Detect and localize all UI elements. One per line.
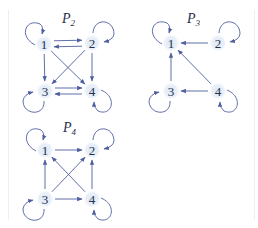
node-label: 3 [168, 84, 175, 99]
transition-graphs-diagram: P21234P31234P41234 [0, 0, 258, 228]
node-label: 4 [215, 84, 222, 99]
edge-4-to-1 [178, 50, 211, 84]
node-2: 2 [83, 141, 101, 159]
node-label: 1 [42, 143, 49, 158]
edge-1-to-2 [54, 40, 82, 41]
node-label: 1 [41, 37, 48, 52]
node-4: 4 [83, 82, 101, 100]
node-label: 2 [89, 143, 96, 158]
node-3: 3 [162, 82, 180, 100]
graph-title: P2 [61, 11, 76, 28]
node-label: 2 [89, 36, 96, 51]
edge-2-to-1 [54, 46, 82, 47]
graph-p2: P21234 [23, 11, 114, 112]
node-4: 4 [209, 82, 227, 100]
node-1: 1 [35, 35, 53, 53]
edge-1-to-3 [44, 54, 45, 81]
node-1: 1 [36, 141, 54, 159]
node-label: 2 [215, 36, 222, 51]
node-3: 3 [36, 190, 54, 208]
graph-p3: P31234 [149, 11, 240, 112]
node-label: 3 [42, 192, 49, 207]
node-label: 4 [89, 192, 96, 207]
node-label: 3 [42, 84, 49, 99]
graph-title: P3 [186, 11, 201, 28]
node-2: 2 [209, 34, 227, 52]
node-2: 2 [83, 34, 101, 52]
node-4: 4 [83, 190, 101, 208]
node-3: 3 [36, 82, 54, 100]
graph-p4: P41234 [23, 120, 114, 220]
graph-title: P4 [62, 120, 77, 137]
node-1: 1 [162, 34, 180, 52]
node-label: 1 [168, 36, 175, 51]
node-label: 4 [89, 84, 96, 99]
